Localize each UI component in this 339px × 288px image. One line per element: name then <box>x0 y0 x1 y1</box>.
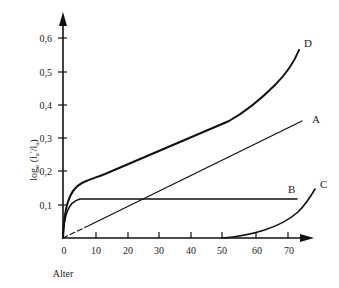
x-tick-label: 20 <box>123 245 133 256</box>
curve-a <box>90 121 302 225</box>
y-tick-labels: 0,1 0,2 0,3 0,4 0,5 0,6 <box>40 33 53 211</box>
curve-label-d: D <box>304 37 312 49</box>
curve-label-b: B <box>288 183 295 195</box>
curve-b <box>63 199 297 238</box>
x-tick-label: 50 <box>217 245 227 256</box>
x-tick-label: 70 <box>284 245 294 256</box>
x-tick-label: 0 <box>62 245 67 256</box>
curve-label-c: C <box>320 178 327 190</box>
x-tick-label: 30 <box>154 245 164 256</box>
y-tick-label: 0,6 <box>40 33 53 44</box>
y-tick-label: 0,2 <box>40 166 53 177</box>
curve-label-a: A <box>312 113 320 125</box>
curve-a-dashed <box>63 225 90 238</box>
x-tick-label: 40 <box>186 245 196 256</box>
x-ticks <box>96 232 288 238</box>
y-tick-label: 0,5 <box>40 67 53 78</box>
axes <box>63 22 306 238</box>
x-tick-label: 60 <box>252 245 262 256</box>
curve-d <box>63 50 299 238</box>
y-tick-label: 0,3 <box>40 133 53 144</box>
y-tick-label: 0,1 <box>40 200 53 211</box>
x-tick-labels: 0 10 20 30 40 50 60 70 <box>62 245 295 256</box>
x-tick-label: 10 <box>91 245 101 256</box>
x-axis-arrow-icon <box>300 234 314 242</box>
x-axis-label: Alter <box>53 268 74 279</box>
y-axis-arrow-icon <box>59 12 67 26</box>
chart: 0,1 0,2 0,3 0,4 0,5 0,6 0 10 20 30 40 50… <box>0 0 339 288</box>
curve-c <box>222 189 315 238</box>
y-tick-label: 0,4 <box>40 100 53 111</box>
